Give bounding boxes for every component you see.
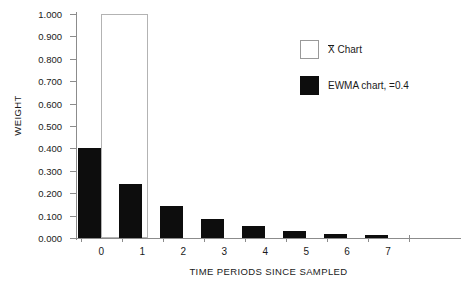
- y-tick-mark: [70, 193, 77, 194]
- y-tick-label: 1.000: [0, 9, 62, 20]
- y-tick-label: 0.800: [0, 53, 62, 64]
- y-tick-mark: [70, 36, 77, 37]
- y-tick-label: 0.200: [0, 188, 62, 199]
- bar-ewma: [283, 231, 306, 238]
- y-tick-label: 0.700: [0, 76, 62, 87]
- legend-swatch-filled-icon: [300, 76, 319, 95]
- y-tick-mark: [70, 104, 77, 105]
- y-tick-label: 0.600: [0, 98, 62, 109]
- x-tick-label: 1: [122, 246, 162, 257]
- bar-ewma: [119, 184, 142, 238]
- y-tick-label: 0.100: [0, 210, 62, 221]
- y-tick-label: 0.300: [0, 165, 62, 176]
- legend-label-ewma-chart: EWMA chart, =0.4: [328, 80, 409, 91]
- x-tick-label: 2: [163, 246, 203, 257]
- x-tick-label: 3: [204, 246, 244, 257]
- y-tick-mark: [70, 238, 77, 239]
- legend-item-ewma-chart: EWMA chart, =0.4: [300, 76, 409, 95]
- legend-swatch-open-icon: [300, 40, 319, 59]
- x-bar-symbol: X: [328, 44, 335, 55]
- bar-ewma: [242, 226, 265, 238]
- legend-item-xbar-chart: X Chart: [300, 40, 362, 59]
- bar-ewma: [201, 219, 224, 238]
- x-tick-label: 7: [368, 246, 408, 257]
- x-tick-label: 0: [81, 246, 121, 257]
- x-tick-label: 6: [327, 246, 367, 257]
- y-tick-mark: [70, 14, 77, 15]
- bar-ewma: [365, 235, 388, 238]
- y-tick-label: 0.900: [0, 31, 62, 42]
- y-tick-label: 0.500: [0, 121, 62, 132]
- x-axis-line: [76, 238, 461, 239]
- y-tick-mark: [70, 81, 77, 82]
- x-tick-label: 4: [245, 246, 285, 257]
- y-tick-mark: [70, 59, 77, 60]
- legend-label-xbar-chart: X Chart: [328, 44, 362, 55]
- y-tick-mark: [70, 171, 77, 172]
- y-tick-mark: [70, 126, 77, 127]
- bar-ewma: [78, 148, 101, 238]
- y-tick-mark: [70, 216, 77, 217]
- bar-ewma: [160, 206, 183, 238]
- weight-decay-bar-chart: WEIGHT 0.0000.1000.2000.3000.4000.5000.6…: [0, 0, 475, 294]
- x-axis-label: TIME PERIODS SINCE SAMPLED: [76, 266, 461, 277]
- y-tick-label: 0.000: [0, 233, 62, 244]
- x-tick-mark: [409, 235, 410, 242]
- y-tick-mark: [70, 148, 77, 149]
- bar-ewma: [324, 234, 347, 238]
- y-tick-label: 0.400: [0, 143, 62, 154]
- x-tick-label: 5: [286, 246, 326, 257]
